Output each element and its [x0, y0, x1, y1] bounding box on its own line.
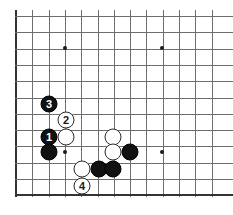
white-stone-lower-left	[74, 161, 91, 178]
grid-line-horizontal	[15, 32, 233, 33]
grid-line-vertical	[163, 10, 164, 197]
white-stone-move-4: 4	[74, 178, 91, 195]
white-stone-left	[58, 129, 75, 146]
grid-line-horizontal	[15, 163, 233, 164]
grid-line-vertical	[146, 10, 147, 197]
stone-move-number: 3	[46, 98, 52, 109]
grid-line-vertical	[212, 10, 213, 197]
grid-line-horizontal	[15, 81, 233, 82]
board-edge-bottom	[15, 194, 233, 196]
black-stone-center-right	[122, 144, 139, 161]
star-top-right-icon	[160, 46, 164, 50]
grid-line-vertical	[130, 10, 131, 197]
stone-move-number: 4	[79, 180, 85, 191]
grid-line-horizontal	[15, 179, 233, 180]
grid-line-vertical	[65, 10, 66, 197]
grid-line-vertical	[32, 10, 33, 197]
grid-line-horizontal	[15, 65, 233, 66]
board-edge-left	[15, 10, 17, 197]
white-stone-center-lower	[105, 144, 122, 161]
grid-line-horizontal	[15, 49, 233, 50]
star-top-left-icon	[63, 46, 67, 50]
black-stone-bottom-center	[105, 161, 122, 178]
star-bottom-left-icon	[63, 150, 67, 154]
stone-move-number: 2	[63, 114, 69, 125]
go-board: 3214	[0, 0, 233, 215]
grid-line-vertical	[179, 10, 180, 197]
star-bottom-right-icon	[160, 150, 164, 154]
grid-line-vertical	[195, 10, 196, 197]
grid-line-horizontal	[15, 16, 233, 17]
white-stone-move-2: 2	[58, 112, 75, 129]
black-stone-left-lower	[41, 144, 58, 161]
black-stone-move-3: 3	[41, 96, 58, 113]
stone-move-number: 1	[46, 131, 52, 142]
grid-line-horizontal	[15, 114, 233, 115]
